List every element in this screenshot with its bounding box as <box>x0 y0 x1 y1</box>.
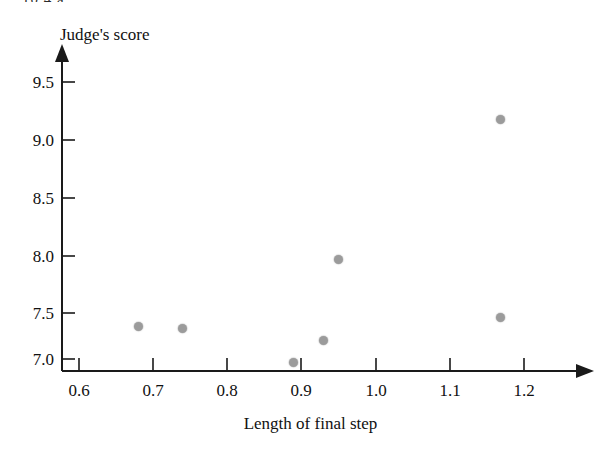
y-tick-label: 9.5 <box>12 73 54 93</box>
x-tick-label: 0.6 <box>57 381 101 401</box>
y-tick-label: 9.0 <box>12 131 54 151</box>
data-point <box>178 324 187 333</box>
y-tick-label: 7.5 <box>12 304 54 324</box>
x-axis-ticks <box>79 358 524 371</box>
x-tick-label: 0.7 <box>131 381 175 401</box>
scatter-plot-figure: 10.4 a. Judge's score 9.5 9.0 <box>0 0 603 449</box>
y-tick-label: 8.0 <box>12 247 54 267</box>
x-tick-label: 0.9 <box>279 381 323 401</box>
y-tick-label: 7.0 <box>12 350 54 370</box>
x-tick-label: 1.0 <box>354 381 398 401</box>
x-tick-label: 0.8 <box>205 381 249 401</box>
y-axis-ticks <box>62 82 75 359</box>
y-tick-label: 8.5 <box>12 189 54 209</box>
x-tick-label: 1.1 <box>428 381 472 401</box>
x-tick-label: 1.2 <box>502 381 546 401</box>
data-point <box>319 336 328 345</box>
x-axis-title-text: Length of final step <box>244 414 378 434</box>
data-point <box>334 255 343 264</box>
x-axis-title: Length of final step <box>0 414 603 434</box>
